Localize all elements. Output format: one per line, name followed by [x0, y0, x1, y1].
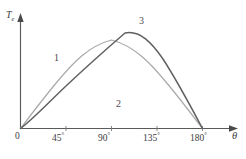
- curve-label-3: 3: [139, 16, 144, 26]
- x-tick-label-45: 45°: [52, 132, 64, 144]
- x-tick-text-0: 0: [15, 131, 20, 141]
- x-tick-text-180: 180: [190, 133, 204, 143]
- curve-label-2: 2: [116, 99, 121, 109]
- x-axis-label: θ: [232, 131, 237, 142]
- curve-label-1: 1: [54, 53, 59, 63]
- degree-symbol-135: °: [157, 131, 160, 138]
- x-tick-text-45: 45: [52, 133, 62, 143]
- chart-figure: Te θ 0 45° 90° 135° 180° 1 2 3: [0, 0, 246, 159]
- curve-series-3: [21, 33, 203, 129]
- x-tick-label-135: 135°: [143, 132, 160, 144]
- plot-canvas: [0, 0, 246, 159]
- x-tick-text-135: 135: [143, 133, 157, 143]
- x-tick-text-90: 90: [98, 133, 108, 143]
- y-axis-label-subscript: e: [12, 15, 15, 22]
- x-tick-label-0: 0: [15, 132, 20, 142]
- degree-symbol-45: °: [62, 131, 65, 138]
- degree-symbol-90: °: [108, 131, 111, 138]
- degree-symbol-180: °: [204, 131, 207, 138]
- curve-series-1: [21, 40, 203, 129]
- y-axis-arrowhead: [17, 13, 23, 22]
- x-tick-label-180: 180°: [190, 132, 207, 144]
- y-axis-label: Te: [6, 10, 14, 23]
- x-tick-label-90: 90°: [98, 132, 110, 144]
